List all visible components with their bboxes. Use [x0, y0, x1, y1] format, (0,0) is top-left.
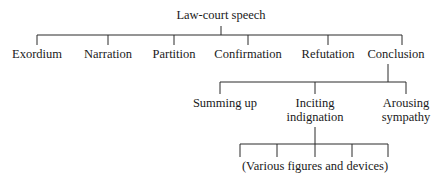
node-exordium: Exordium [12, 47, 62, 61]
node-refutation: Refutation [302, 47, 355, 61]
node-confirmation: Confirmation [214, 47, 281, 61]
node-conclusion: Conclusion [368, 47, 425, 61]
node-various-figures: (Various figures and devices) [242, 159, 388, 173]
tree-connectors [0, 0, 446, 181]
node-partition: Partition [152, 47, 195, 61]
node-arousing-line2: sympathy [382, 110, 431, 124]
node-arousing-line1: Arousing [382, 96, 431, 110]
node-inciting-line1: Inciting [287, 96, 344, 110]
node-narration: Narration [84, 47, 132, 61]
node-root: Law-court speech [176, 8, 265, 22]
node-arousing-sympathy: Arousing sympathy [382, 96, 431, 124]
node-inciting-line2: indignation [287, 110, 344, 124]
node-summing-up: Summing up [193, 96, 257, 110]
node-inciting-indignation: Inciting indignation [287, 96, 344, 124]
